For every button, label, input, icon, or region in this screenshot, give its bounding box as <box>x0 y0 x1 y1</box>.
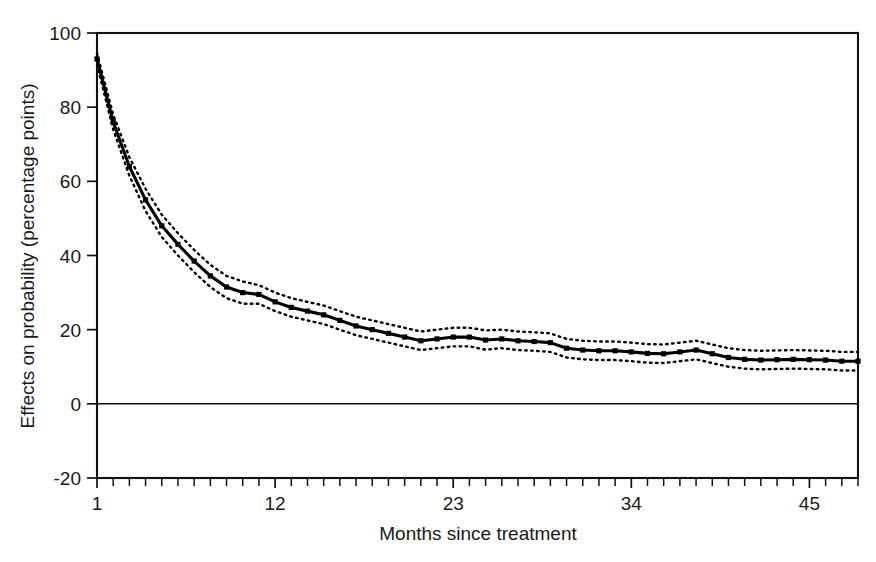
data-point-marker <box>289 305 294 310</box>
data-point-marker <box>224 284 229 289</box>
y-axis-ticks <box>87 33 97 478</box>
data-point-marker <box>467 334 472 339</box>
y-tick-label: 100 <box>49 23 81 44</box>
data-point-marker <box>855 359 860 364</box>
data-point-marker <box>94 56 99 61</box>
y-tick-label: 60 <box>60 171 81 192</box>
y-axis-title: Effects on probability (percentage point… <box>17 83 38 428</box>
data-point-marker <box>742 357 747 362</box>
data-point-marker <box>175 242 180 247</box>
data-point-marker <box>305 309 310 314</box>
data-point-marker <box>774 357 779 362</box>
data-point-marker <box>693 347 698 352</box>
data-point-marker <box>208 273 213 278</box>
x-axis-title: Months since treatment <box>379 523 577 544</box>
data-point-marker <box>127 164 132 169</box>
data-point-marker <box>451 334 456 339</box>
x-tick-label: 1 <box>92 493 103 514</box>
data-point-marker <box>159 223 164 228</box>
x-tick-label: 23 <box>443 493 464 514</box>
data-point-marker <box>580 347 585 352</box>
confidence-bound-line <box>97 53 858 352</box>
series-markers <box>94 56 860 363</box>
series-line <box>97 59 858 361</box>
data-point-marker <box>143 197 148 202</box>
data-point-marker <box>710 351 715 356</box>
data-point-marker <box>499 336 504 341</box>
data-point-marker <box>386 331 391 336</box>
y-tick-label: 0 <box>70 394 81 415</box>
data-point-marker <box>629 349 634 354</box>
data-point-marker <box>483 337 488 342</box>
data-point-marker <box>613 348 618 353</box>
data-point-marker <box>337 318 342 323</box>
data-point-marker <box>791 357 796 362</box>
data-point-marker <box>758 357 763 362</box>
data-point-marker <box>256 292 261 297</box>
data-point-marker <box>677 349 682 354</box>
confidence-band-lines <box>97 53 858 370</box>
plot-frame <box>97 33 858 478</box>
data-point-marker <box>532 339 537 344</box>
data-point-marker <box>661 351 666 356</box>
data-point-marker <box>321 312 326 317</box>
data-point-marker <box>726 355 731 360</box>
y-tick-label: 80 <box>60 97 81 118</box>
data-point-marker <box>434 336 439 341</box>
x-tick-label: 12 <box>265 493 286 514</box>
data-point-marker <box>418 338 423 343</box>
data-point-marker <box>353 323 358 328</box>
data-point-marker <box>807 357 812 362</box>
data-point-marker <box>596 348 601 353</box>
data-point-marker <box>402 334 407 339</box>
y-tick-label: -20 <box>54 468 81 489</box>
data-point-marker <box>370 327 375 332</box>
data-point-marker <box>645 351 650 356</box>
data-point-marker <box>240 290 245 295</box>
data-point-marker <box>273 299 278 304</box>
estimated-effect-line <box>97 59 858 361</box>
data-point-marker <box>564 346 569 351</box>
line-chart: 112233445 100806040200-20 Months since t… <box>0 0 876 562</box>
x-axis-tick-labels: 112233445 <box>92 493 820 514</box>
x-tick-label: 45 <box>799 493 820 514</box>
y-tick-label: 40 <box>60 246 81 267</box>
data-point-marker <box>823 357 828 362</box>
data-point-marker <box>515 338 520 343</box>
data-point-marker <box>111 119 116 124</box>
y-axis-tick-labels: 100806040200-20 <box>49 23 81 489</box>
y-tick-label: 20 <box>60 320 81 341</box>
data-point-marker <box>548 340 553 345</box>
confidence-bound-line <box>97 65 858 371</box>
chart-figure: 112233445 100806040200-20 Months since t… <box>0 0 876 562</box>
data-point-marker <box>839 359 844 364</box>
x-axis-ticks <box>97 478 858 488</box>
x-tick-label: 34 <box>621 493 643 514</box>
data-point-marker <box>192 258 197 263</box>
